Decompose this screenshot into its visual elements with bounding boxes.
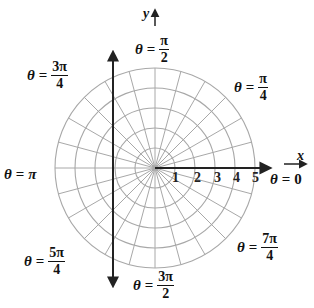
radial-line — [155, 97, 226, 168]
angle-label-3pi-over-4: θ= 3π4 — [27, 60, 68, 91]
radial-line — [155, 81, 205, 168]
polar-coordinate-diagram: y x 1 2 3 4 5 θ=0 θ= π4 θ= π2 θ= 3π4 θ=π… — [0, 0, 314, 308]
radial-line — [84, 168, 155, 239]
radial-line — [58, 168, 155, 194]
radial-line — [58, 142, 155, 168]
radial-line — [84, 97, 155, 168]
tick-1: 1 — [172, 170, 179, 186]
angle-label-5pi-over-4: θ= 5π4 — [24, 246, 65, 277]
angle-label-pi: θ=π — [4, 167, 37, 182]
tick-3: 3 — [214, 170, 221, 186]
radial-line — [129, 168, 155, 265]
radial-line — [68, 168, 155, 218]
radial-line — [68, 118, 155, 168]
y-axis-label: y — [143, 6, 149, 22]
angle-label-7pi-over-4: θ= 7π4 — [237, 232, 278, 263]
x-axis-label: x — [297, 148, 304, 164]
radial-line — [155, 142, 252, 168]
angle-label-0: θ=0 — [270, 172, 302, 187]
angle-label-pi-over-4: θ= π4 — [234, 72, 268, 103]
tick-4: 4 — [233, 170, 240, 186]
angle-label-3pi-over-2: θ= 3π2 — [133, 270, 174, 301]
tick-5: 5 — [252, 170, 259, 186]
angle-label-pi-over-2: θ= π2 — [135, 34, 169, 65]
radial-line — [155, 118, 242, 168]
tick-2: 2 — [194, 170, 201, 186]
radial-line — [155, 71, 181, 168]
radial-line — [129, 71, 155, 168]
